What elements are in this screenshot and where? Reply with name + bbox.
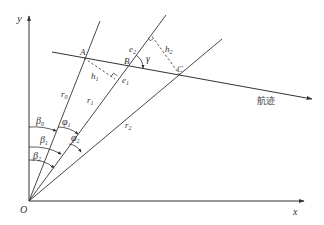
point-a-label: A: [79, 47, 86, 57]
beta2-arc: [29, 160, 54, 168]
ray-r0-label: r0: [61, 89, 68, 100]
phi1-label: φ1: [62, 116, 71, 128]
origin-label: O: [20, 204, 27, 215]
gamma-label: γ: [146, 53, 151, 64]
beta0-arc: [29, 127, 56, 131]
point-b-label: B: [124, 56, 130, 66]
point-c-label: C: [177, 64, 184, 74]
e1-label: e1: [122, 75, 129, 86]
beta2-label: β2: [32, 150, 41, 162]
gamma-arc: [136, 55, 143, 68]
y-axis-label: y: [16, 12, 22, 24]
ray-r1: [29, 15, 166, 201]
x-axis-label: x: [292, 206, 298, 217]
beta0-label: β0: [35, 115, 44, 127]
h2-label: h2: [165, 44, 173, 55]
ray-r0: [29, 21, 100, 201]
perpendicular-h2: [151, 35, 180, 75]
ray-r1-label: r1: [87, 95, 94, 106]
right-angle-mark-e1: [111, 73, 117, 76]
perpendicular-h1: [84, 58, 115, 79]
beta1-label: β1: [39, 134, 48, 146]
h1-label: h1: [91, 71, 99, 82]
track-label: 航迹: [257, 95, 275, 106]
e2-label: e2: [129, 44, 136, 55]
phi2-arc: [69, 144, 81, 152]
ray-r2-label: r2: [125, 120, 132, 131]
bearing-geometry-diagram: y x O A B C r0 r1 r2 h1 h2 e1 e2 γ β0 β1…: [0, 0, 324, 225]
